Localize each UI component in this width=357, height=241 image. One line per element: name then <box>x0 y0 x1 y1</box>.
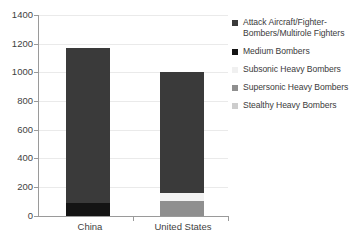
bar-segment-medium-bombers[interactable] <box>66 203 110 216</box>
bar-stack-united-states[interactable] <box>160 72 204 216</box>
legend-item-label: Medium Bombers <box>243 46 310 57</box>
legend-item-attack-aircraft[interactable]: Attack Aircraft/Fighter-Bombers/Multirol… <box>232 17 357 39</box>
x-tick-label-china: China <box>54 221 126 232</box>
y-tick-label: 800 <box>3 96 33 106</box>
y-tick-label: 1000 <box>3 67 33 77</box>
legend-item-label: Attack Aircraft/Fighter-Bombers/Multirol… <box>243 17 357 39</box>
chart-screenshot: 1400 1200 1000 800 600 400 200 0 <box>0 0 357 241</box>
legend-item-medium-bombers[interactable]: Medium Bombers <box>232 46 357 57</box>
legend-swatch-icon <box>232 49 238 55</box>
plot-area <box>38 15 228 216</box>
y-tick-label: 400 <box>3 153 33 163</box>
legend-swatch-icon <box>232 103 238 109</box>
x-tick-mark <box>133 217 134 221</box>
bar-segment-subsonic-heavy-bombers[interactable] <box>160 193 204 201</box>
legend-swatch-icon <box>232 20 238 26</box>
y-tick-label: 200 <box>3 182 33 192</box>
y-tick-label: 600 <box>3 125 33 135</box>
y-axis-tick-labels: 1400 1200 1000 800 600 400 200 0 <box>0 0 33 241</box>
legend-swatch-icon <box>232 67 238 73</box>
bar-stack-china[interactable] <box>66 48 110 216</box>
legend-item-label: Stealthy Heavy Bombers <box>243 100 336 111</box>
bar-segment-attack-aircraft[interactable] <box>160 72 204 193</box>
legend-item-supersonic-heavy-bombers[interactable]: Supersonic Heavy Bombers <box>232 82 357 93</box>
x-tick-mark <box>228 217 229 221</box>
y-tick-label: 1400 <box>3 10 33 20</box>
y-tick-label: 1200 <box>3 39 33 49</box>
legend-item-subsonic-heavy-bombers[interactable]: Subsonic Heavy Bombers <box>232 64 357 75</box>
chart-legend: Attack Aircraft/Fighter-Bombers/Multirol… <box>232 17 357 118</box>
legend-item-stealthy-heavy-bombers[interactable]: Stealthy Heavy Bombers <box>232 100 357 111</box>
legend-item-label: Supersonic Heavy Bombers <box>243 82 348 93</box>
y-tick-label: 0 <box>3 211 33 221</box>
legend-swatch-icon <box>232 85 238 91</box>
x-tick-label-united-states: United States <box>144 221 222 232</box>
bar-segment-attack-aircraft[interactable] <box>66 48 110 203</box>
bar-segment-supersonic-heavy-bombers[interactable] <box>160 201 204 216</box>
legend-item-label: Subsonic Heavy Bombers <box>243 64 341 75</box>
